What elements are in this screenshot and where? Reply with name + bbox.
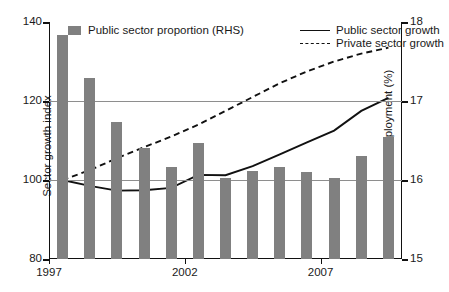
bar-1999	[111, 122, 122, 259]
bar-2005	[274, 167, 285, 259]
y-tick-left	[43, 101, 49, 103]
y-tick-label-right: 18	[410, 16, 449, 28]
legend-label: Private sector growth	[336, 37, 444, 50]
gridline	[49, 101, 402, 102]
chart-legend: Public sector proportion (RHS) Public se…	[68, 24, 286, 37]
bar-2003	[220, 178, 231, 259]
legend-solid-line-icon	[300, 30, 330, 31]
y-tick-left	[43, 22, 49, 24]
legend-item-public-sector-proportion: Public sector proportion (RHS)	[68, 24, 286, 37]
x-tick-label: 2002	[155, 267, 215, 279]
y-tick-label-right: 17	[410, 95, 449, 107]
legend-dashed-line-icon	[300, 43, 330, 44]
y-tick-left	[43, 180, 49, 182]
y-tick-label-right: 15	[410, 253, 449, 265]
x-tick-label: 1997	[19, 267, 79, 279]
chart-figure: Sector growth index Public sector employ…	[0, 0, 449, 292]
y-tick-label-left: 100	[2, 174, 42, 186]
y-tick-label-left: 120	[2, 95, 42, 107]
legend-label: Public sector proportion (RHS)	[88, 24, 244, 37]
legend-swatch-icon	[68, 26, 81, 35]
x-tick	[49, 259, 50, 264]
bar-2008	[356, 156, 367, 259]
y-tick-label-left: 80	[2, 253, 42, 265]
x-tick	[321, 259, 322, 264]
bar-2009	[383, 137, 394, 259]
bar-2000	[139, 148, 150, 259]
bar-2004	[247, 171, 258, 259]
bar-2006	[301, 172, 312, 259]
y-tick-right	[402, 101, 408, 103]
y-tick-label-left: 140	[2, 16, 42, 28]
x-tick	[185, 259, 186, 264]
legend-item-private-sector-growth: Private sector growth	[300, 37, 444, 50]
x-tick-label: 2007	[291, 267, 351, 279]
bar-1997	[57, 35, 68, 259]
bar-2007	[329, 178, 340, 259]
y-tick-label-right: 16	[410, 174, 449, 186]
bar-2002	[193, 143, 204, 259]
bar-2001	[166, 167, 177, 259]
plot-area	[49, 22, 402, 259]
bar-1998	[84, 78, 95, 259]
y-tick-right	[402, 259, 408, 261]
y-tick-right	[402, 180, 408, 182]
